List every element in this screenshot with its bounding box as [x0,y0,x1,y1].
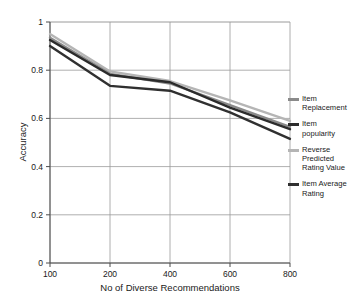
x-tick-label: 200 [103,269,117,279]
y-tick-label: 1 [38,17,43,27]
legend-entry[interactable]: Item Average Rating [288,179,363,197]
y-axis-tick-labels: 00.20.40.60.81 [31,17,43,268]
x-tick-label: 800 [283,269,297,279]
y-axis-ticks [46,22,50,263]
y-tick-label: 0 [38,258,43,268]
legend-entry[interactable]: Item Replacement [288,94,363,112]
legend-entry[interactable]: Reverse Predicted Rating Value [288,145,363,173]
legend-color-swatch [288,123,299,126]
legend-label: Item popularity [302,119,335,137]
x-axis-tick-labels: 100200400600800 [43,269,297,279]
legend-label: Reverse Predicted Rating Value [302,145,345,173]
x-tick-label: 100 [43,269,57,279]
legend-color-swatch [288,183,299,186]
x-axis-ticks [50,263,290,267]
x-tick-label: 600 [223,269,237,279]
y-axis-title: Accuracy [17,122,28,161]
x-axis-title: No of Diverse Recommendations [100,282,240,293]
legend-label: Item Replacement [302,94,347,112]
y-tick-label: 0.6 [31,113,43,123]
legend-color-swatch [288,149,299,152]
y-tick-label: 0.4 [31,162,43,172]
y-tick-label: 0.2 [31,210,43,220]
line-chart: 00.20.40.60.81 100200400600800 Accuracy … [0,0,363,299]
legend-label: Item Average Rating [302,179,347,197]
chart-legend: Item ReplacementItem popularityReverse P… [288,94,363,205]
legend-entry[interactable]: Item popularity [288,119,363,137]
legend-color-swatch [288,98,299,101]
x-tick-label: 400 [163,269,177,279]
y-tick-label: 0.8 [31,65,43,75]
